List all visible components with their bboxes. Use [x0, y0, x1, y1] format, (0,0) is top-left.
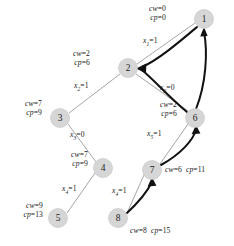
cost-label-node-4: cw=7 cp=9 [48, 151, 88, 169]
cost-label-node-5: cw=9 cp=13 [0, 202, 43, 220]
node-8-label: 8 [116, 213, 121, 223]
cost-label-node-6: cw=2 cp=6 [137, 101, 177, 119]
edge-label-x2-right: x2=0 [160, 84, 175, 94]
arc-edge-7-6 [161, 130, 196, 165]
edge-label-x4-right: x4=1 [112, 187, 127, 197]
edge-label-x4-left: x4=1 [62, 185, 77, 195]
cp-value-node-3: cp=9 [2, 109, 42, 118]
edge-label-x5: x5=1 [147, 130, 162, 140]
node-5[interactable]: 5 [49, 209, 68, 228]
cost-label-node-2: cw=2 cp=6 [50, 50, 90, 68]
cp-value-node-6: cp=6 [137, 110, 177, 119]
edge-label-x1: x1=1 [143, 37, 158, 47]
node-5-label: 5 [56, 213, 61, 223]
cp-value-node-2: cp=6 [50, 59, 90, 68]
tree-edge-6-7 [160, 124, 188, 164]
node-4[interactable]: 4 [94, 159, 113, 178]
node-2[interactable]: 2 [119, 59, 138, 78]
node-6-label: 6 [193, 113, 198, 123]
node-6[interactable]: 6 [186, 109, 205, 128]
tree-edge-2-3 [69, 74, 120, 113]
cost-label-node-1: cw=0 cp=0 [126, 5, 166, 23]
tree-edge-7-8 [127, 175, 144, 213]
cp-value-node-5: cp=13 [0, 211, 43, 220]
node-7[interactable]: 7 [143, 161, 162, 180]
node-4-label: 4 [101, 163, 106, 173]
cost-label-node-3: cw=7 cp=9 [2, 100, 42, 118]
cost-label-node-8: cw=8 cp=15 [130, 227, 170, 236]
cp-value-node-1: cp=0 [126, 14, 166, 23]
node-8[interactable]: 8 [109, 209, 128, 228]
node-1-label: 1 [202, 14, 207, 24]
node-2-label: 2 [126, 63, 131, 73]
arc-edge-8-7 [127, 182, 152, 213]
node-1[interactable]: 1 [195, 10, 214, 29]
cost-label-node-7: cw=6 cp=11 [165, 166, 205, 175]
cp-value-node-4: cp=9 [48, 160, 88, 169]
node-7-label: 7 [150, 165, 155, 175]
edge-label-x2-left: x2=1 [74, 82, 89, 92]
arc-edge-1-2 [142, 27, 197, 67]
edge-label-x3: x3=0 [70, 131, 85, 141]
diagram-canvas: 1 2 3 4 5 6 7 [0, 0, 234, 246]
node-3-label: 3 [58, 113, 63, 123]
arc-edge-6-1 [196, 32, 206, 109]
node-3[interactable]: 3 [51, 109, 70, 128]
